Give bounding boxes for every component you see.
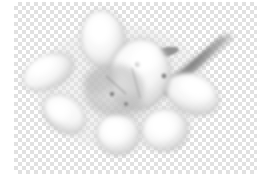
transparency-canvas[interactable]	[14, 2, 257, 174]
flower-artwork-svg	[14, 2, 257, 174]
image-canvas-viewport[interactable]	[0, 0, 271, 188]
flower-artwork	[14, 2, 257, 174]
